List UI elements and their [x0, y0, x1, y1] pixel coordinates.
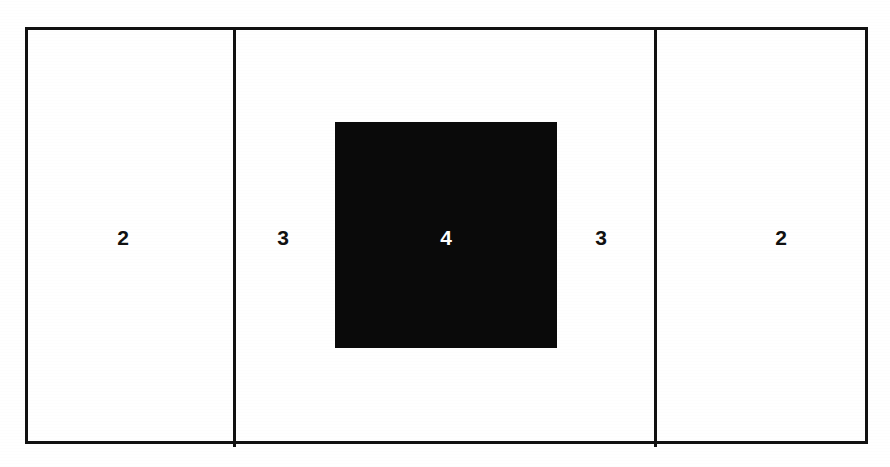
label-square: 4 — [426, 227, 466, 248]
label-left-gap: 3 — [263, 227, 303, 248]
label-right-cell: 2 — [761, 227, 801, 248]
label-left-cell: 2 — [103, 227, 143, 248]
divider-right — [654, 27, 657, 447]
label-right-gap: 3 — [581, 227, 621, 248]
divider-left — [233, 27, 236, 447]
diagram-canvas: 2 3 4 3 2 — [0, 0, 890, 467]
